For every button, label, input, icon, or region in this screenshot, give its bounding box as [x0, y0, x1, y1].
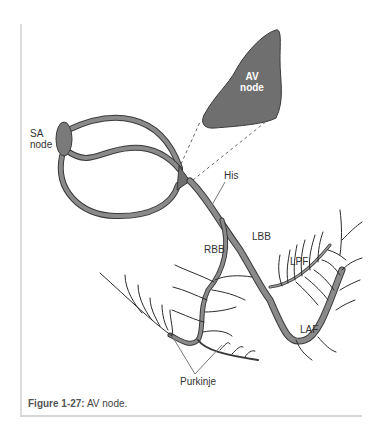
- figure-caption-number: Figure 1-27:: [28, 398, 85, 409]
- his-label: His: [224, 170, 238, 181]
- lbb-label: LBB: [252, 231, 271, 242]
- laf-label: LAF: [300, 324, 318, 335]
- sa-node-shape: [56, 122, 72, 156]
- dashed-callout-line-upper: [181, 122, 200, 164]
- av-node-small-shape: [177, 166, 190, 190]
- figure-caption: Figure 1-27: AV node.: [28, 398, 127, 409]
- sa-node-label: SA node: [30, 128, 52, 150]
- sa-node-label-line1: SA: [30, 128, 43, 139]
- conduction-system-diagram: [0, 0, 377, 430]
- figure-caption-text: AV node.: [85, 398, 128, 409]
- rbb-label: RBB: [204, 244, 225, 255]
- sa-node-label-line2: node: [30, 139, 52, 150]
- purkinje-label: Purkinje: [180, 376, 216, 387]
- lpf-label: LPF: [290, 256, 308, 267]
- av-node-label-line1: AV: [245, 71, 258, 82]
- av-node-label-line2: node: [240, 82, 264, 93]
- av-node-label: AV node: [232, 71, 272, 93]
- his-leader-line: [212, 182, 225, 205]
